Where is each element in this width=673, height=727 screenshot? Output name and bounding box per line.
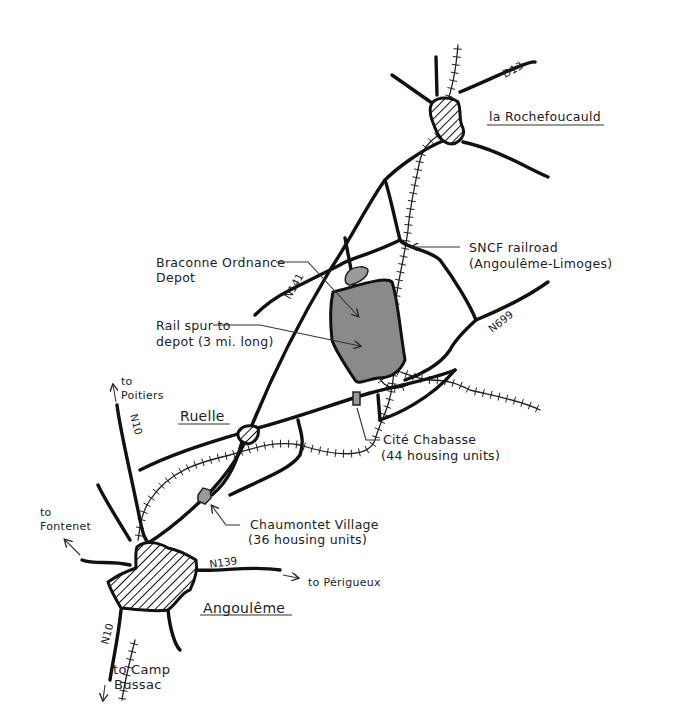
road-label-n10-north: N10 — [128, 412, 145, 436]
road-label-n10-south: N10 — [98, 622, 115, 646]
braconne-depot-sublabel: Depot — [156, 270, 195, 285]
chaumontet-village-sublabel: (36 housing units) — [248, 532, 367, 547]
braconne-depot-area — [331, 280, 405, 382]
cite-chabasse-label: Cité Chabasse — [383, 432, 476, 447]
road-label-n141: N141 — [281, 271, 305, 301]
rail-spur-sublabel: depot (3 mi. long) — [156, 334, 274, 349]
sncf-railroad-sublabel: (Angoulême-Limoges) — [469, 256, 612, 271]
to-poitiers-sublabel: Poitiers — [121, 389, 164, 402]
town-label-ruelle: Ruelle — [180, 408, 225, 424]
sncf-label-line1: SNCF railroad — [469, 240, 558, 255]
map-canvas: D13 N141 N699 N10 N139 N10 la Rochefouca… — [0, 0, 673, 727]
to-camp-bussac-label: to Camp — [113, 662, 170, 677]
angouleme-town — [108, 543, 197, 611]
town-label-la-rochefoucauld: la Rochefoucauld — [489, 109, 601, 124]
to-fontenet-label: to — [40, 506, 52, 519]
road-label-n699: N699 — [486, 308, 515, 335]
to-camp-bussac-sublabel: Bussac — [114, 677, 162, 692]
to-poitiers-label: to — [121, 375, 133, 388]
braconne-depot-label: Braconne Ordnance — [156, 255, 285, 270]
cite-chabasse-sublabel: (44 housing units) — [381, 448, 500, 463]
cite-chabasse-marker — [353, 392, 360, 405]
chaumontet-village-marker — [198, 488, 211, 504]
leader-lines — [212, 247, 460, 525]
chaumontet-village-label: Chaumontet Village — [250, 517, 379, 532]
town-label-angouleme: Angoulême — [203, 600, 285, 616]
to-fontenet-sublabel: Fontenet — [40, 520, 92, 533]
sncf-railroad-label: SNCF railroad — [469, 240, 558, 255]
road-label-d13: D13 — [500, 59, 525, 80]
rail-spur-label: Rail spur to — [156, 318, 231, 333]
ruelle-town — [238, 426, 259, 444]
to-perigueux-label: to Périgueux — [308, 576, 381, 589]
